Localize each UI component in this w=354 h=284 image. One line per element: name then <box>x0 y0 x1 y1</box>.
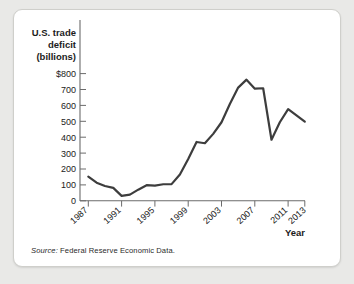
y-axis-title-line-2: deficit <box>48 39 77 50</box>
y-tick-label-500: 500 <box>61 117 76 127</box>
x-tick-label-2007: 2007 <box>235 205 257 226</box>
x-tick-label-2011: 2011 <box>268 205 289 225</box>
x-tick-label-2013: 2013 <box>286 205 308 226</box>
source-text: Federal Reserve Economic Data. <box>58 246 175 255</box>
chart-plot-area: U.S. trade deficit (billions) <box>14 10 340 240</box>
y-axis-tick-labels: $800 700 600 500 400 300 200 100 0 <box>56 69 76 206</box>
y-tick-label-700: 700 <box>61 85 76 95</box>
y-tick-label-800: $800 <box>56 69 76 79</box>
trade-deficit-data-line <box>88 80 304 196</box>
y-tick-label-400: 400 <box>61 133 76 143</box>
x-axis-tick-labels: 1987 1991 1995 1999 2003 2007 2011 2013 <box>68 205 308 226</box>
x-tick-label-1999: 1999 <box>168 205 190 226</box>
y-axis-tick-marks <box>80 74 86 201</box>
y-tick-label-200: 200 <box>61 164 76 174</box>
y-tick-label-100: 100 <box>61 180 76 190</box>
y-tick-label-600: 600 <box>61 101 76 111</box>
y-axis-title-line-1: U.S. trade <box>32 27 76 38</box>
x-tick-label-1995: 1995 <box>135 205 157 226</box>
x-axis: 1987 1991 1995 1999 2003 2007 2011 2013 … <box>68 201 308 238</box>
x-axis-title: Year <box>285 227 305 238</box>
y-tick-label-300: 300 <box>61 149 76 159</box>
y-axis-title: U.S. trade deficit (billions) <box>32 27 77 62</box>
source-label: Source: <box>31 246 58 255</box>
x-tick-label-2003: 2003 <box>201 205 223 226</box>
x-axis-tick-marks <box>88 201 304 207</box>
x-tick-label-1987: 1987 <box>68 205 90 226</box>
x-tick-label-1991: 1991 <box>101 205 123 226</box>
y-tick-label-0: 0 <box>71 196 76 206</box>
y-axis-title-line-3: (billions) <box>36 51 76 62</box>
source-note: Source: Federal Reserve Economic Data. <box>31 246 175 255</box>
figure-card: U.S. trade deficit (billions) <box>13 9 341 267</box>
trade-deficit-line-chart: U.S. trade deficit (billions) <box>14 10 340 240</box>
